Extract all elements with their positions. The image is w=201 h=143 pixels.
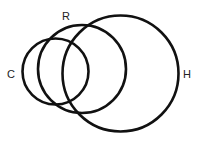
circle-h bbox=[63, 16, 179, 132]
label-r: R bbox=[62, 10, 70, 22]
label-h: H bbox=[183, 68, 191, 80]
label-c: C bbox=[7, 68, 15, 80]
venn-canvas: R C H bbox=[0, 0, 201, 143]
circle-r bbox=[38, 25, 126, 113]
venn-diagram: R C H bbox=[0, 0, 201, 143]
circle-c bbox=[23, 39, 89, 105]
